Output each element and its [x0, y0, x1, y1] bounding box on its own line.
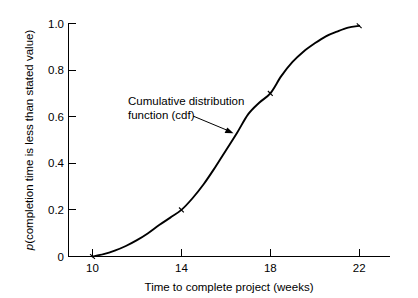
x-axis-title: Time to complete project (weeks): [145, 281, 314, 293]
x-tick-label-10: 10: [86, 262, 99, 274]
x-tick-label-18: 18: [264, 262, 277, 274]
y-tick-marks: [69, 24, 77, 210]
annotation-leader-line: [193, 116, 229, 131]
cdf-annotation-text: Cumulative distribution function (cdf): [128, 95, 244, 121]
x-tick-labels: 10 14 18 22: [86, 262, 365, 274]
annotation-line-2: function (cdf): [128, 109, 195, 121]
y-tick-label-0.4: 0.4: [48, 157, 65, 169]
cdf-annotation-leader: [193, 116, 234, 133]
x-tick-label-22: 22: [353, 262, 366, 274]
y-tick-label-0.2: 0.2: [48, 204, 64, 216]
x-tick-marks: [93, 249, 360, 257]
axes-group: [69, 23, 391, 257]
y-tick-labels: 1.0 0.8 0.6 0.4 0.2 0: [48, 18, 65, 263]
cdf-chart-figure: 1.0 0.8 0.6 0.4 0.2 0 10 14 18 22 Time t…: [0, 0, 418, 298]
cdf-data-markers: [90, 23, 362, 258]
y-tick-label-0.8: 0.8: [48, 64, 64, 76]
annotation-arrow-head: [225, 128, 234, 134]
y-tick-label-1.0: 1.0: [48, 18, 64, 30]
chart-canvas: 1.0 0.8 0.6 0.4 0.2 0 10 14 18 22 Time t…: [0, 0, 418, 298]
x-tick-label-14: 14: [175, 262, 188, 274]
annotation-line-1: Cumulative distribution: [128, 95, 244, 107]
y-tick-label-0: 0: [58, 251, 64, 263]
y-tick-label-0.6: 0.6: [48, 111, 64, 123]
cdf-curve: [93, 26, 360, 257]
y-axis-title-rest: (completion time is less than stated val…: [23, 30, 35, 244]
y-axis-title: p(completion time is less than stated va…: [23, 30, 35, 252]
